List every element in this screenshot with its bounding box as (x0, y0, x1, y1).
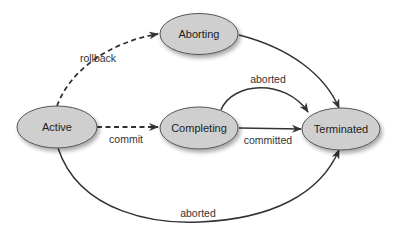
edge-rollback: rollback (57, 34, 158, 106)
state-diagram: rollback commit aborted committed aborte… (0, 0, 398, 231)
node-label-completing: Completing (171, 122, 227, 134)
edge-commit: commit (97, 127, 158, 145)
edge-completing-committed: committed (239, 128, 301, 146)
edge-label-committed: committed (244, 134, 293, 146)
node-label-terminated: Terminated (314, 123, 368, 135)
node-label-aborting: Aborting (179, 28, 220, 40)
edge-aborting-terminated (239, 35, 339, 108)
edge-label-active-aborted: aborted (180, 207, 216, 219)
edge-completing-aborted: aborted (221, 73, 308, 112)
edge-label-commit: commit (109, 133, 143, 145)
edge-active-aborted: aborted (58, 148, 339, 222)
edge-label-rollback: rollback (80, 52, 117, 64)
node-label-active: Active (42, 121, 72, 133)
edge-label-completing-aborted: aborted (250, 73, 286, 85)
